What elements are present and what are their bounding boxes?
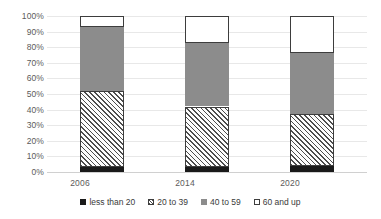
y-axis-tick-90: 90% <box>2 28 44 37</box>
legend-label-40-to-59: 40 to 59 <box>210 198 241 207</box>
chart-legend: less than 20 20 to 39 40 to 59 60 and up <box>0 198 381 207</box>
x-axis-tick-2014: 2014 <box>145 178 225 188</box>
bar-2014-segment-40-to-59[interactable] <box>185 43 229 107</box>
y-axis-tick-70: 70% <box>2 59 44 68</box>
y-axis-tick-100: 100% <box>2 12 44 21</box>
y-axis-tick-0: 0% <box>2 168 44 177</box>
y-axis-tick-80: 80% <box>2 43 44 52</box>
bar-2006[interactable] <box>80 16 124 172</box>
legend-label-20-to-39: 20 to 39 <box>157 198 188 207</box>
bar-2020-segment-40-to-59[interactable] <box>290 53 334 114</box>
bar-2006-segment-less-than-20[interactable] <box>80 167 124 172</box>
legend-item-60-and-up[interactable]: 60 and up <box>254 198 301 207</box>
x-axis-tick-2020: 2020 <box>250 178 330 188</box>
bar-2006-segment-20-to-39[interactable] <box>80 91 124 167</box>
legend-label-60-and-up: 60 and up <box>263 198 301 207</box>
legend-item-40-to-59[interactable]: 40 to 59 <box>201 198 241 207</box>
bar-2020-segment-60-and-up[interactable] <box>290 16 334 53</box>
legend-swatch-icon-less-than-20 <box>80 199 86 205</box>
bar-2020[interactable] <box>290 16 334 172</box>
y-axis-tick-60: 60% <box>2 74 44 83</box>
plot-area <box>47 16 367 172</box>
legend-label-less-than-20: less than 20 <box>89 198 135 207</box>
y-axis-tick-40: 40% <box>2 106 44 115</box>
stacked-bar-chart: 100% 90% 80% 70% 60% 50% 40% 30% 20% 10%… <box>0 0 381 219</box>
legend-swatch-icon-60-and-up <box>254 199 260 205</box>
bar-2014-segment-60-and-up[interactable] <box>185 16 229 43</box>
legend-item-20-to-39[interactable]: 20 to 39 <box>148 198 188 207</box>
bar-2020-segment-less-than-20[interactable] <box>290 166 334 172</box>
bar-2014[interactable] <box>185 16 229 172</box>
x-axis-tick-2006: 2006 <box>40 178 120 188</box>
y-axis-tick-20: 20% <box>2 137 44 146</box>
gridline-0-baseline <box>47 172 367 173</box>
bar-2014-segment-less-than-20[interactable] <box>185 167 229 172</box>
bar-2006-segment-60-and-up[interactable] <box>80 16 124 27</box>
legend-swatch-icon-20-to-39 <box>148 199 154 205</box>
y-axis-tick-30: 30% <box>2 121 44 130</box>
bar-2006-segment-40-to-59[interactable] <box>80 27 124 91</box>
bar-2020-segment-20-to-39[interactable] <box>290 114 334 165</box>
y-axis-tick-10: 10% <box>2 152 44 161</box>
y-axis: 100% 90% 80% 70% 60% 50% 40% 30% 20% 10%… <box>0 16 44 172</box>
legend-swatch-icon-40-to-59 <box>201 199 207 205</box>
legend-item-less-than-20[interactable]: less than 20 <box>80 198 135 207</box>
y-axis-tick-50: 50% <box>2 90 44 99</box>
bar-2014-segment-20-to-39[interactable] <box>185 107 229 168</box>
